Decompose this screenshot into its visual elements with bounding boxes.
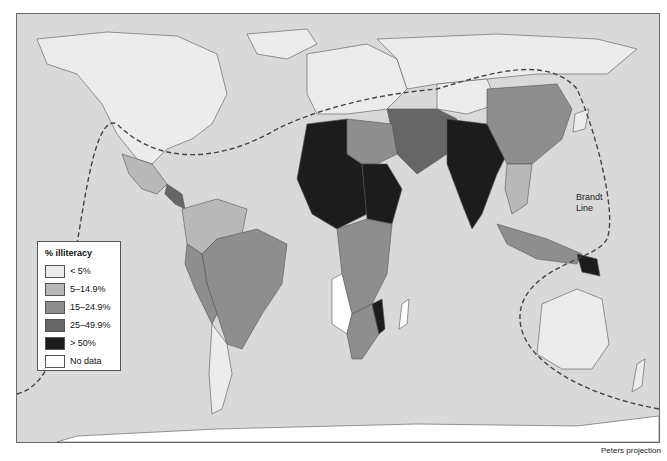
legend-label: < 5% [70,266,91,276]
brandt-label-line2: Line [576,203,603,214]
legend-swatch [45,337,65,350]
map-canvas [17,14,659,442]
legend-item: > 50% [45,334,114,352]
region-greenland [247,29,317,59]
legend-swatch [45,319,65,332]
region-japan [573,109,589,132]
legend: % illiteracy < 5% 5–14.9% 15–24.9% 25–49… [37,241,121,371]
legend-swatch [45,283,65,296]
legend-item: 15–24.9% [45,298,114,316]
legend-label: 25–49.9% [70,320,111,330]
region-russia [377,34,637,89]
legend-item: 5–14.9% [45,280,114,298]
legend-label: 5–14.9% [70,284,106,294]
region-europe [307,44,407,114]
legend-title: % illiteracy [45,248,114,258]
legend-label: > 50% [70,338,96,348]
legend-item: 25–49.9% [45,316,114,334]
legend-item: < 5% [45,262,114,280]
region-egypt [347,119,397,164]
region-east-africa-black [362,164,402,224]
region-australia [537,289,609,369]
legend-swatch [45,301,65,314]
region-antarctica [57,416,659,442]
legend-item: No data [45,352,114,370]
region-indonesia [497,224,582,264]
region-southeast-asia [505,164,532,214]
region-north-america [37,32,227,164]
region-new-zealand [632,359,645,392]
region-madagascar [399,299,409,329]
legend-label: No data [70,356,102,366]
brandt-line-label: Brandt Line [576,192,603,214]
region-central-america [165,184,185,209]
world-map [16,13,660,443]
projection-label: Peters projection [601,446,661,455]
legend-swatch [45,355,65,368]
brandt-label-line1: Brandt [576,192,603,203]
region-middle-east [387,109,457,174]
legend-label: 15–24.9% [70,302,111,312]
legend-swatch [45,265,65,278]
